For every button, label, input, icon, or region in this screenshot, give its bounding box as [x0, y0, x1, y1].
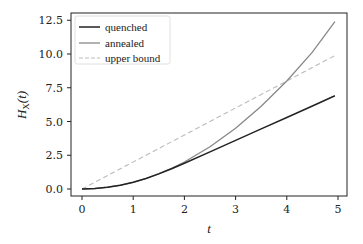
x-tick-label: 2: [181, 203, 188, 216]
y-axis-label-arg: (t): [14, 91, 29, 103]
y-tick-label: 2.5: [46, 149, 64, 162]
x-tick-label: 1: [130, 203, 137, 216]
x-tick-label: 5: [335, 203, 342, 216]
y-tick-label: 7.5: [46, 82, 64, 95]
x-axis-label: t: [207, 221, 211, 236]
legend-label-quenched: quenched: [105, 21, 148, 33]
x-tick-label: 3: [232, 203, 239, 216]
y-axis-ticks: 0.02.55.07.510.012.5: [39, 14, 72, 196]
x-axis-ticks: 012345: [79, 196, 342, 216]
x-tick-label: 0: [79, 203, 86, 216]
y-axis-label-main: H: [14, 109, 29, 120]
y-tick-label: 5.0: [46, 116, 64, 129]
y-axis-label: HX(t): [14, 91, 31, 120]
y-tick-label: 12.5: [39, 14, 64, 27]
legend: quenched annealed upper bound: [75, 16, 170, 64]
x-tick-label: 4: [283, 203, 290, 216]
y-tick-label: 10.0: [39, 48, 64, 61]
legend-label-annealed: annealed: [105, 37, 145, 49]
y-tick-label: 0.0: [46, 183, 64, 196]
legend-label-upper-bound: upper bound: [105, 52, 161, 64]
chart: 012345 0.02.55.07.510.012.5 t HX(t) quen…: [0, 0, 363, 244]
